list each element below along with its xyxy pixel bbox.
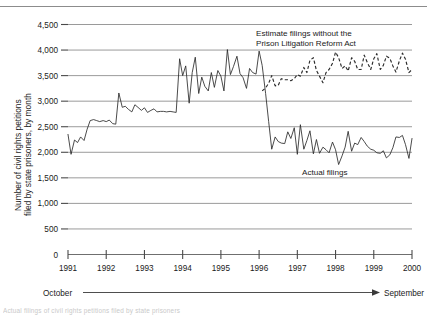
x-tick-label: 1992 <box>97 264 116 273</box>
series-estimate-filings <box>262 52 412 91</box>
y-tick-label: 1,000 <box>38 199 59 208</box>
x-tick-label: 1997 <box>288 264 307 273</box>
x-tick-label: 1998 <box>326 264 345 273</box>
y-tick-label: 2,500 <box>38 123 59 132</box>
x-tick-label: 1999 <box>365 264 384 273</box>
clipped-footnote: Actual filings of civil rights petitions… <box>3 307 303 315</box>
y-tick-label: 3,000 <box>38 97 59 106</box>
estimate-annotation-line1: Estimate filings without the <box>256 29 352 38</box>
x-tick-label: 1996 <box>250 264 269 273</box>
y-tick-label: 500 <box>44 225 58 234</box>
x-tick-label: 1991 <box>59 264 78 273</box>
top-divider-rule <box>0 6 427 7</box>
x-axis-group <box>68 250 412 259</box>
y-tick-label: 4,000 <box>38 46 59 55</box>
estimate-annotation-line2: Prison Litigation Reform Act <box>256 39 357 48</box>
y-tick-label: 0 <box>53 251 58 260</box>
y-tick-label: 3,500 <box>38 72 59 81</box>
y-tick-labels-group: 05001,0001,5002,0002,5003,0003,5004,0004… <box>38 21 59 260</box>
y-tick-label: 2,000 <box>38 148 59 157</box>
x-tick-label: 1995 <box>212 264 231 273</box>
gridlines-group <box>61 25 412 229</box>
span-arrow <box>83 289 380 295</box>
x-tick-labels-group: 1991199219931994199519961997199819992000 <box>59 264 422 273</box>
x-tick-label: 2000 <box>403 264 422 273</box>
span-end-label: September <box>384 289 424 298</box>
y-axis-title-line2: filed by state prisoners, by month <box>23 93 33 216</box>
actual-annotation: Actual filings <box>302 168 347 177</box>
x-tick-label: 1993 <box>135 264 154 273</box>
series-actual-filings <box>68 50 412 165</box>
y-axis-title-line1: Number of civil rights petitions <box>13 99 23 211</box>
y-tick-label: 1,500 <box>38 174 59 183</box>
y-tick-label: 4,500 <box>38 21 59 30</box>
span-start-label: October <box>43 289 72 298</box>
x-tick-label: 1994 <box>174 264 193 273</box>
